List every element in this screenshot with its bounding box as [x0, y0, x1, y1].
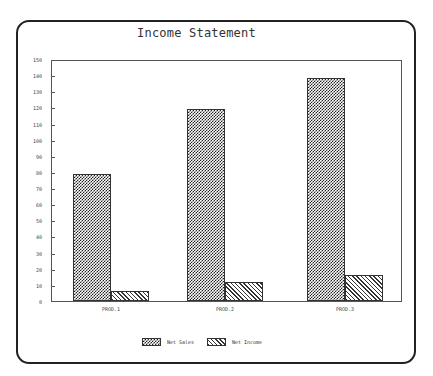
y-tick-label: 150 [22, 57, 42, 63]
net-sales-bar-prod3 [307, 78, 345, 301]
y-tick-label: 40 [22, 234, 42, 240]
legend-label-net-income: Net Income [232, 339, 262, 345]
net-income-swatch-icon [207, 338, 226, 346]
y-tick-label: 100 [22, 138, 42, 144]
net-sales-bar-prod1 [73, 174, 111, 301]
net-sales-swatch-icon [142, 338, 161, 346]
legend: Net Sales Net Income [0, 338, 433, 350]
y-tick-label: 10 [22, 283, 42, 289]
plot-area [51, 60, 402, 302]
chart-title: Income Statement [0, 26, 433, 40]
legend-label-net-sales: Net Sales [167, 339, 194, 345]
x-tick-label: PROD.3 [325, 306, 365, 312]
net-income-bar-prod3 [345, 275, 383, 301]
net-income-bar-prod1 [111, 291, 149, 301]
y-tick-label: 120 [22, 105, 42, 111]
net-income-bar-prod2 [225, 282, 263, 301]
y-tick-label: 60 [22, 202, 42, 208]
x-tick-label: PROD.2 [205, 306, 245, 312]
y-tick-label: 70 [22, 186, 42, 192]
y-tick-label: 110 [22, 122, 42, 128]
y-tick-label: 20 [22, 267, 42, 273]
y-tick-label: 0 [22, 299, 42, 305]
y-tick-label: 80 [22, 170, 42, 176]
x-tick-label: PROD.1 [91, 306, 131, 312]
y-tick-label: 130 [22, 89, 42, 95]
y-tick-label: 140 [22, 73, 42, 79]
net-sales-bar-prod2 [187, 109, 225, 301]
y-tick-label: 50 [22, 218, 42, 224]
y-tick-label: 30 [22, 251, 42, 257]
y-tick-label: 90 [22, 154, 42, 160]
legend-item-net-sales: Net Sales [142, 338, 194, 346]
legend-item-net-income: Net Income [207, 338, 262, 346]
